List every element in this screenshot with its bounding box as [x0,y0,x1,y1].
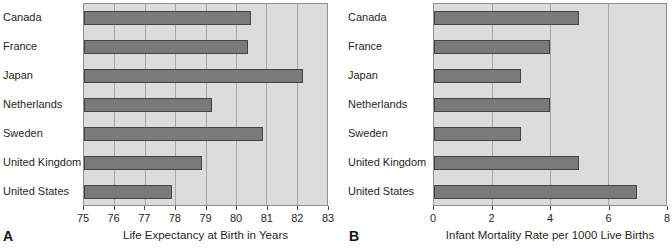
tick-mark [236,206,237,210]
bar-united-states [84,185,172,199]
plot-area [83,3,328,206]
panel-label-b: B [349,228,359,244]
category-label: Netherlands [348,97,407,111]
bar-sweden [84,127,263,141]
category-label: United States [348,184,414,198]
category-label: United Kingdom [3,155,81,169]
tick-mark [83,206,84,210]
category-label: France [3,39,37,53]
tick-label: 75 [77,212,89,224]
tick-label: 81 [261,212,273,224]
tick-mark [297,206,298,210]
x-axis-title: Infant Mortality Rate per 1000 Live Birt… [433,229,667,241]
tick-label: 76 [108,212,120,224]
category-label: Canada [348,10,387,24]
bar-united-kingdom [84,156,202,170]
tick-label: 80 [230,212,242,224]
tick-mark [492,206,493,210]
category-label: France [348,39,382,53]
comparative-bar-charts-figure: CanadaFranceJapanNetherlandsSwedenUnited… [0,0,672,248]
tick-mark [114,206,115,210]
tick-label: 79 [199,212,211,224]
x-axis: 757677787980818283 [83,206,328,230]
bar-france [434,40,550,54]
bar-netherlands [84,98,212,112]
x-axis-title: Life Expectancy at Birth in Years [83,229,328,241]
category-label: Netherlands [3,97,62,111]
bar-sweden [434,127,521,141]
tick-label: 83 [322,212,334,224]
category-label: United Kingdom [348,155,426,169]
x-axis: 02468 [433,206,667,230]
tick-label: 82 [291,212,303,224]
tick-mark [175,206,176,210]
tick-mark [667,206,668,210]
category-label: United States [3,184,69,198]
bar-canada [84,11,251,25]
life-expectancy-chart: CanadaFranceJapanNetherlandsSwedenUnited… [0,0,336,248]
bar-united-states [434,185,637,199]
tick-mark [267,206,268,210]
tick-label: 6 [605,212,611,224]
tick-label: 8 [664,212,670,224]
gridline [608,4,609,205]
bar-japan [434,69,521,83]
tick-label: 78 [169,212,181,224]
gridline [550,4,551,205]
tick-label: 0 [430,212,436,224]
bar-japan [84,69,303,83]
tick-mark [609,206,610,210]
category-label: Canada [3,10,42,24]
tick-mark [206,206,207,210]
tick-mark [550,206,551,210]
gridline [236,4,237,205]
tick-mark [433,206,434,210]
bar-france [84,40,248,54]
plot-area [433,3,667,206]
tick-label: 2 [488,212,494,224]
tick-label: 77 [138,212,150,224]
gridline [266,4,267,205]
bar-united-kingdom [434,156,579,170]
category-labels-column: CanadaFranceJapanNetherlandsSwedenUnited… [336,0,433,210]
tick-label: 4 [547,212,553,224]
tick-mark [328,206,329,210]
category-label: Sweden [348,126,388,140]
gridline [297,4,298,205]
tick-mark [144,206,145,210]
bar-canada [434,11,579,25]
category-labels-column: CanadaFranceJapanNetherlandsSwedenUnited… [0,0,83,210]
bar-netherlands [434,98,550,112]
infant-mortality-chart: CanadaFranceJapanNetherlandsSwedenUnited… [336,0,672,248]
category-label: Japan [3,68,33,82]
panel-label-a: A [3,228,13,244]
category-label: Sweden [3,126,43,140]
category-label: Japan [348,68,378,82]
